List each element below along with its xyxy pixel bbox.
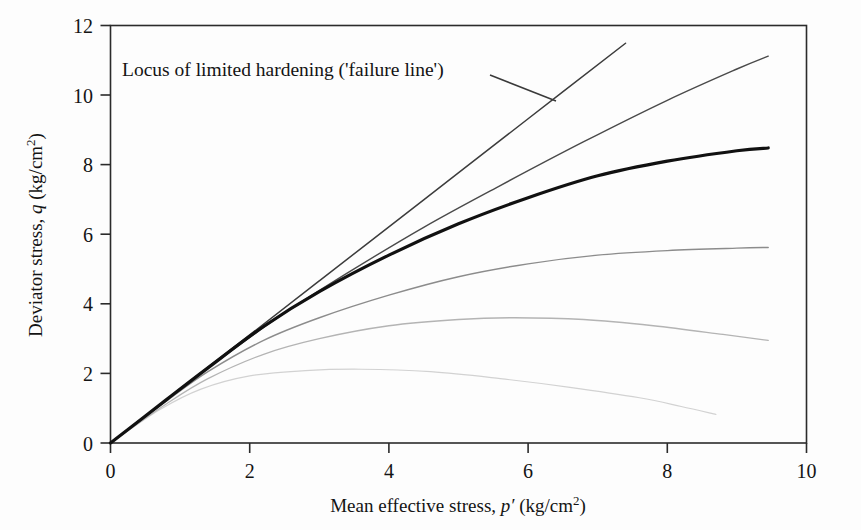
y-axis-title-prefix: Deviator stress,: [25, 214, 46, 337]
series-hardening-curve-2: [111, 148, 769, 443]
x-tick-labels: 0 2 4 6 8 10: [106, 460, 817, 482]
x-tick-label: 0: [106, 460, 116, 482]
data-series-layer: [111, 43, 769, 443]
y-tick-label: 10: [73, 85, 93, 107]
y-tick-labels: 0 2 4 6 8 10 12: [73, 15, 93, 455]
y-tick-label: 4: [83, 293, 93, 315]
x-axis-title-units-close: ): [579, 495, 585, 517]
series-softening-curve-5: [111, 369, 717, 443]
series-hardening-curve-1: [111, 56, 769, 443]
plot-frame: [111, 26, 807, 444]
annotation-leader-line: [490, 75, 556, 101]
x-axis-title-units-open: (kg/cm: [514, 495, 573, 517]
y-tick-label: 0: [83, 433, 93, 455]
series-hardening-curve-3: [111, 247, 769, 443]
x-tick-label: 6: [523, 460, 533, 482]
series-hardening-curve-4: [111, 318, 769, 443]
annotation-label: Locus of limited hardening ('failure lin…: [122, 59, 444, 81]
y-tick-label: 2: [83, 363, 93, 385]
x-axis-title-prefix: Mean effective stress,: [330, 495, 501, 516]
x-tick-label: 8: [662, 460, 672, 482]
x-axis-title: Mean effective stress, p′ (kg/cm2): [330, 493, 586, 518]
chart-canvas: 0 2 4 6 8 10 0 2 4 6 8 10 12 Locus of li…: [0, 0, 861, 530]
y-axis-ticks: [101, 26, 111, 444]
y-tick-label: 12: [73, 15, 93, 37]
x-axis-ticks: [111, 443, 807, 453]
chart-figure: 0 2 4 6 8 10 0 2 4 6 8 10 12 Locus of li…: [0, 0, 861, 530]
x-axis-title-symbol: p: [499, 495, 511, 516]
x-tick-label: 4: [384, 460, 394, 482]
y-axis-title-units-close: ): [25, 133, 47, 139]
y-axis-title-symbol: q: [25, 204, 46, 214]
y-axis-title-units-open: (kg/cm: [25, 146, 47, 205]
x-tick-label: 10: [797, 460, 817, 482]
y-tick-label: 8: [83, 154, 93, 176]
y-tick-label: 6: [83, 224, 93, 246]
x-tick-label: 2: [245, 460, 255, 482]
y-axis-title: Deviator stress, q (kg/cm2): [23, 133, 48, 337]
